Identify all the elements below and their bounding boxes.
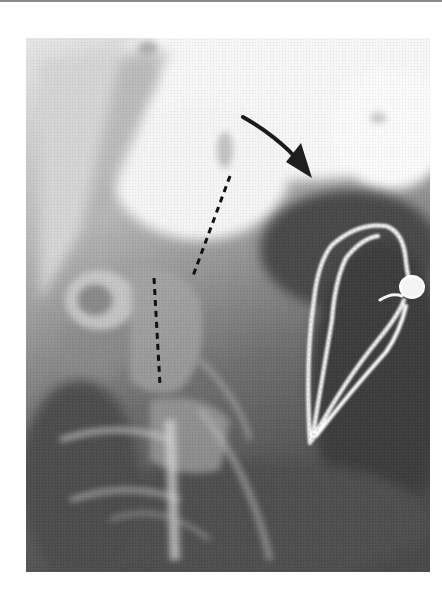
xray-figure bbox=[26, 38, 430, 572]
wire-knot bbox=[400, 276, 424, 298]
xray-canvas bbox=[26, 38, 430, 572]
top-rule bbox=[0, 0, 442, 2]
film-grain bbox=[26, 38, 430, 572]
